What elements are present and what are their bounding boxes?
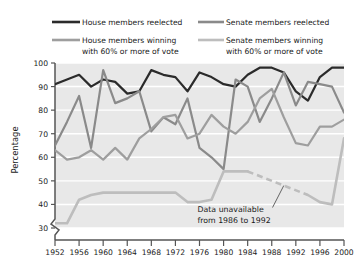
x-tick-label-1960: 1960 bbox=[94, 248, 113, 257]
legend-label-3: Senate members winning bbox=[226, 36, 323, 45]
legend-label2-3: with 60% or more of vote bbox=[226, 47, 323, 56]
legend-label2-2: with 60% or more of vote bbox=[82, 47, 179, 56]
x-tick-label-1976: 1976 bbox=[190, 248, 209, 257]
y-tick-label-40: 40 bbox=[38, 200, 48, 209]
x-tick-label-1972: 1972 bbox=[166, 248, 185, 257]
y-tick-label-80: 80 bbox=[38, 106, 48, 115]
x-tick-label-1980: 1980 bbox=[214, 248, 233, 257]
y-tick-label-60: 60 bbox=[38, 153, 48, 162]
y-tick-label-70: 70 bbox=[38, 130, 48, 139]
x-tick-label-1956: 1956 bbox=[69, 248, 88, 257]
x-tick-label-1988: 1988 bbox=[262, 248, 281, 257]
x-tick-label-1992: 1992 bbox=[286, 248, 305, 257]
annotation-line-2: from 1986 to 1992 bbox=[198, 216, 271, 225]
y-tick-label-100: 100 bbox=[34, 59, 49, 68]
legend-label-0: House members reelected bbox=[82, 18, 183, 27]
annotation-line-1: Data unavailable bbox=[198, 205, 264, 214]
x-tick-label-2000: 2000 bbox=[334, 248, 353, 257]
y-tick-label-30: 30 bbox=[38, 224, 48, 233]
y-axis-title: Percentage bbox=[10, 126, 20, 173]
x-tick-label-1964: 1964 bbox=[118, 248, 137, 257]
chart-container: House members reelectedHouse members win… bbox=[0, 0, 356, 258]
x-tick-label-1984: 1984 bbox=[238, 248, 257, 257]
y-tick-label-90: 90 bbox=[38, 83, 48, 92]
election-incumbency-line-chart: House members reelectedHouse members win… bbox=[0, 0, 356, 258]
y-tick-label-50: 50 bbox=[38, 177, 48, 186]
x-tick-label-1952: 1952 bbox=[45, 248, 64, 257]
legend-label-2: House members winning bbox=[82, 36, 177, 45]
x-tick-label-1968: 1968 bbox=[142, 248, 161, 257]
x-tick-label-1996: 1996 bbox=[310, 248, 329, 257]
chart-legend: House members reelectedHouse members win… bbox=[52, 18, 329, 56]
legend-label-1: Senate members reelected bbox=[226, 18, 329, 27]
